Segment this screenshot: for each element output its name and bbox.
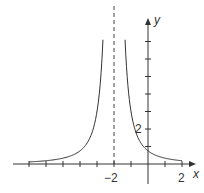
x-tick-label-2: 2: [178, 172, 185, 184]
chart-plot: [0, 0, 204, 193]
y-tick-label-2: 2: [135, 123, 142, 135]
x-axis-label: x: [193, 168, 199, 180]
y-axis-arrow-icon: [145, 18, 151, 25]
curve-right-branch: [125, 40, 182, 161]
y-axis-label: y: [154, 14, 160, 26]
x-tick-label-neg2: −2: [104, 172, 118, 184]
curve-left-branch: [29, 40, 103, 162]
